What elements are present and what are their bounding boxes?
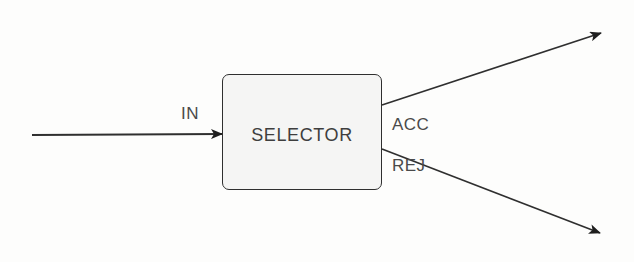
input-port-label: IN	[181, 105, 199, 122]
reject-port-label: REJ	[392, 157, 426, 174]
selector-block: SELECTOR	[222, 74, 382, 190]
diagram-canvas: SELECTOR IN ACC REJ	[0, 0, 634, 262]
accept-arrow	[382, 33, 601, 105]
input-arrow	[32, 134, 222, 135]
selector-label: SELECTOR	[251, 125, 353, 146]
accept-port-label: ACC	[392, 116, 429, 133]
